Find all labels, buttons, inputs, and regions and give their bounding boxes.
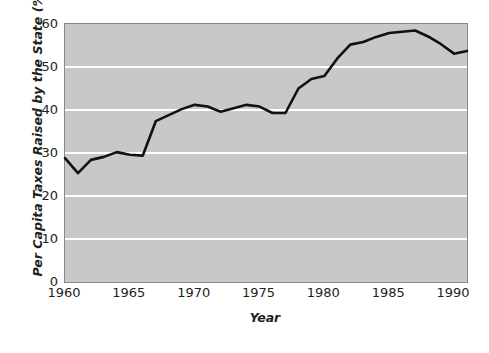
plot-area (64, 23, 468, 283)
x-tick-label: 1980 (307, 285, 340, 300)
series-path (65, 30, 467, 173)
x-tick-label: 1990 (436, 285, 469, 300)
x-tick-label: 1985 (372, 285, 405, 300)
x-tick-label: 1975 (242, 285, 275, 300)
x-axis-title: Year (64, 310, 466, 325)
x-tick-label: 1960 (47, 285, 80, 300)
x-axis-tick-labels: 1960196519701975198019851990 (64, 285, 466, 305)
data-series-line (65, 24, 467, 282)
chart-figure: 0102030405060 19601965197019751980198519… (0, 0, 489, 353)
x-tick-label: 1965 (112, 285, 145, 300)
x-tick-label: 1970 (177, 285, 210, 300)
y-axis-title: Per Capita Taxes Raised by the State (%) (30, 19, 45, 277)
